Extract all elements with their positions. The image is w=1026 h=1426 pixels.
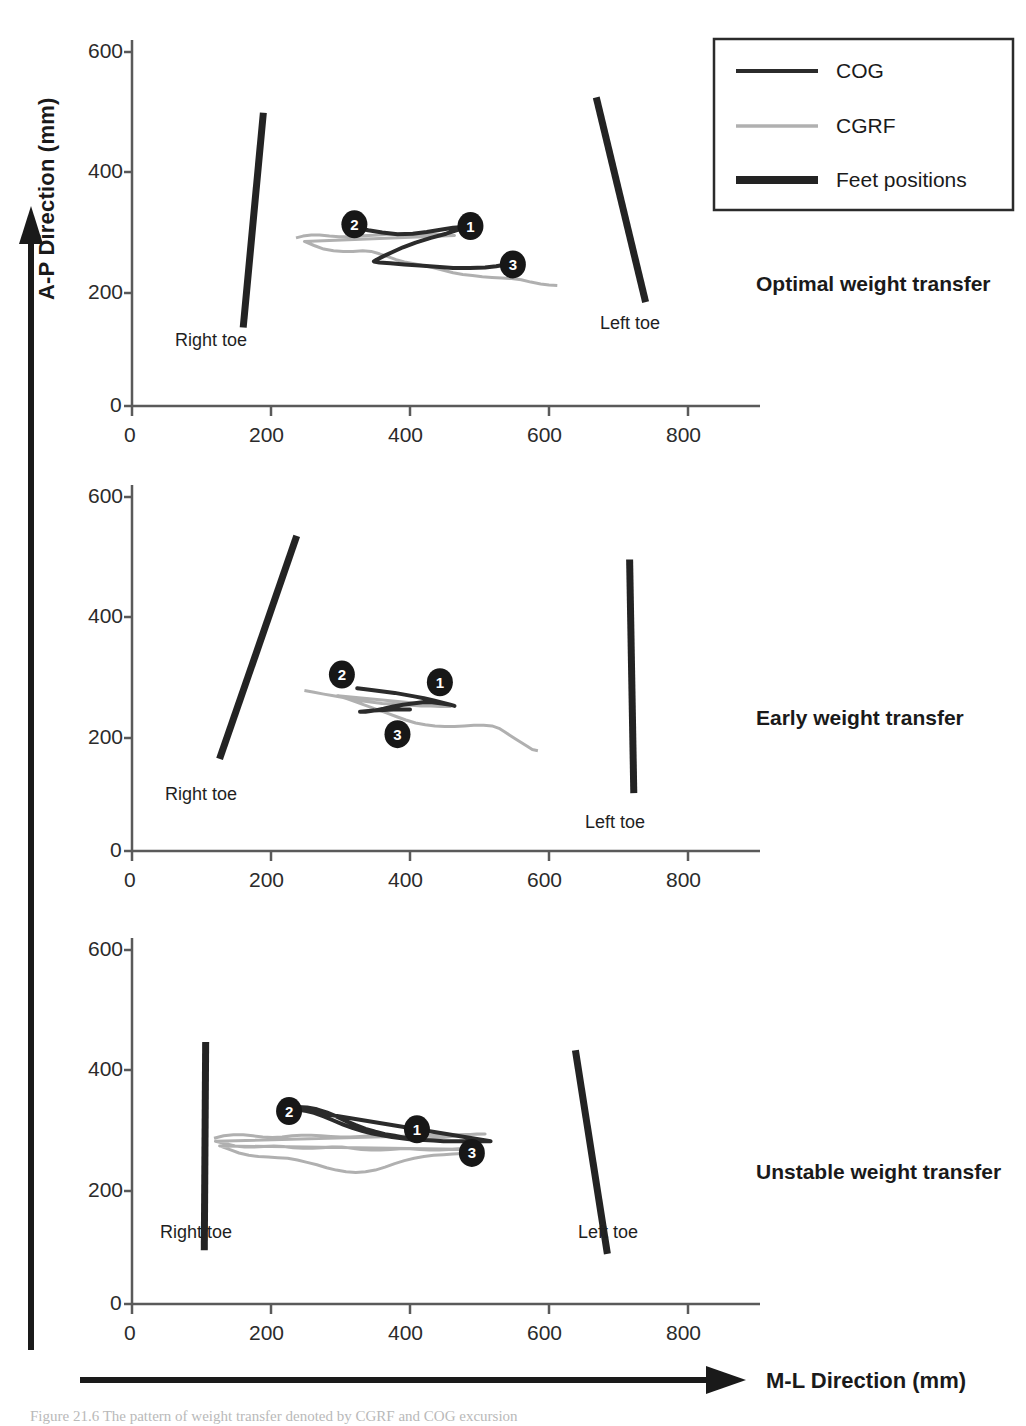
event-marker-label-2: 2 bbox=[285, 1103, 293, 1120]
panel-1-xtick-400: 400 bbox=[388, 423, 423, 447]
panel-3-xtick-200: 200 bbox=[249, 1321, 284, 1345]
panel-3-ytick-400: 400 bbox=[88, 1057, 123, 1081]
event-marker-label-2: 2 bbox=[338, 666, 346, 683]
ml-direction-arrow bbox=[80, 1366, 746, 1394]
panel-1-left-toe-label: Left toe bbox=[600, 313, 660, 334]
legend-label-feet: Feet positions bbox=[836, 168, 967, 192]
event-marker-label-3: 3 bbox=[509, 256, 517, 273]
panel-1-ytick-0: 0 bbox=[110, 393, 122, 417]
panel-1-xtick-600: 600 bbox=[527, 423, 562, 447]
panel-3-xtick-800: 800 bbox=[666, 1321, 701, 1345]
panel-2-xtick-800: 800 bbox=[666, 868, 701, 892]
panel-title-unstable: Unstable weight transfer bbox=[756, 1160, 1001, 1184]
event-marker-label-1: 1 bbox=[466, 218, 474, 235]
panel-1-traces: 123 bbox=[243, 97, 645, 327]
panel-1-ytick-400: 400 bbox=[88, 159, 123, 183]
event-marker-label-1: 1 bbox=[413, 1121, 421, 1138]
event-marker-label-1: 1 bbox=[436, 674, 444, 691]
figure-caption: Figure 21.6 The pattern of weight transf… bbox=[30, 1408, 518, 1425]
panel-2-xtick-600: 600 bbox=[527, 868, 562, 892]
legend-label-cgrf: CGRF bbox=[836, 114, 896, 138]
panel-3-axes bbox=[124, 938, 760, 1314]
panel-2-ytick-400: 400 bbox=[88, 604, 123, 628]
event-marker-label-3: 3 bbox=[468, 1144, 476, 1161]
panel-3-xtick-0: 0 bbox=[124, 1321, 136, 1345]
panel-3-ytick-0: 0 bbox=[110, 1291, 122, 1315]
panel-2-ytick-600: 600 bbox=[88, 484, 123, 508]
event-marker-label-3: 3 bbox=[393, 726, 401, 743]
panel-3-xtick-600: 600 bbox=[527, 1321, 562, 1345]
panel-1-ytick-200: 200 bbox=[88, 280, 123, 304]
panel-3-ytick-200: 200 bbox=[88, 1178, 123, 1202]
panel-title-early: Early weight transfer bbox=[756, 706, 964, 730]
event-marker-label-2: 2 bbox=[350, 216, 358, 233]
panel-2-right-toe-label: Right toe bbox=[165, 784, 237, 805]
legend-label-cog: COG bbox=[836, 59, 884, 83]
panel-3-xtick-400: 400 bbox=[388, 1321, 423, 1345]
panel-3-left-toe-label: Left toe bbox=[578, 1222, 638, 1243]
ap-direction-arrow bbox=[19, 206, 43, 1350]
panel-1-right-toe-label: Right toe bbox=[175, 330, 247, 351]
panel-2-left-toe-label: Left toe bbox=[585, 812, 645, 833]
panel-3-traces: 123 bbox=[204, 1042, 607, 1254]
panel-1-xtick-200: 200 bbox=[249, 423, 284, 447]
figure-root: A-P Direction (mm) M-L Direction (mm) bbox=[0, 0, 1026, 1426]
panel-2-ytick-0: 0 bbox=[110, 838, 122, 862]
panel-2-traces: 123 bbox=[220, 536, 634, 793]
panel-2-xtick-200: 200 bbox=[249, 868, 284, 892]
panel-3-right-toe-label: Right toe bbox=[160, 1222, 232, 1243]
panel-2-xtick-400: 400 bbox=[388, 868, 423, 892]
panel-2-xtick-0: 0 bbox=[124, 868, 136, 892]
panel-title-optimal: Optimal weight transfer bbox=[756, 272, 991, 296]
panel-1-ytick-600: 600 bbox=[88, 39, 123, 63]
panel-1-xtick-0: 0 bbox=[124, 423, 136, 447]
panel-3-ytick-600: 600 bbox=[88, 937, 123, 961]
panel-1-xtick-800: 800 bbox=[666, 423, 701, 447]
panel-2-ytick-200: 200 bbox=[88, 725, 123, 749]
